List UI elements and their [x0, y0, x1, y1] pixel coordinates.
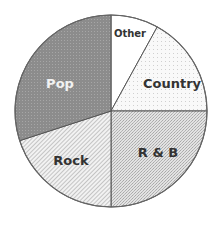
slice-label-other: Other	[114, 28, 146, 39]
slice-label-r-b: R & B	[138, 145, 178, 160]
pie-chart: OtherCountryR & BRockPop	[0, 0, 220, 225]
slice-label-rock: Rock	[53, 153, 89, 168]
slice-label-pop: Pop	[46, 76, 74, 91]
pie-slices	[15, 15, 207, 207]
slice-label-country: Country	[143, 76, 202, 91]
